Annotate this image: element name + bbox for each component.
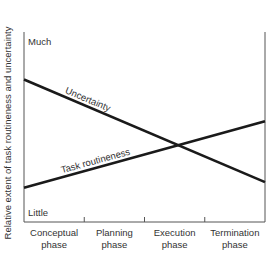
x-ticks (84, 217, 205, 222)
y-axis-label: Relative extent of task routineness and … (2, 26, 13, 239)
y-tick-label-little: Little (28, 207, 48, 218)
x-tick-label: Planningphase (96, 227, 133, 250)
x-tick-label: Terminationphase (210, 227, 259, 250)
category-suffix: phase (41, 239, 67, 250)
category-name: Conceptual (30, 227, 78, 238)
y-tick-label-much: Much (28, 36, 51, 47)
category-name: Termination (210, 227, 259, 238)
chart: Relative extent of task routineness and … (0, 0, 274, 261)
series-group: UncertaintyTask routineness (24, 80, 265, 188)
x-tick-labels: ConceptualphasePlanningphaseExecutionpha… (30, 227, 259, 250)
x-tick-label: Conceptualphase (30, 227, 78, 250)
category-suffix: phase (222, 239, 248, 250)
x-tick-label: Executionphase (154, 227, 196, 250)
category-suffix: phase (162, 239, 188, 250)
category-name: Execution (154, 227, 196, 238)
category-suffix: phase (101, 239, 127, 250)
category-name: Planning (96, 227, 133, 238)
